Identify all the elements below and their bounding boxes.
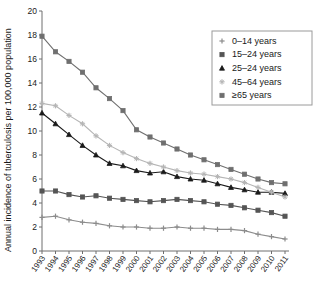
data-point-plus [174,224,179,229]
data-point-star [188,170,193,175]
data-point-square [175,197,179,201]
data-point-star [228,176,233,181]
data-point-square [134,199,138,203]
data-point-square [94,86,98,90]
data-point-square [67,59,71,63]
legend-item-label: 0–14 years [232,36,277,46]
series-2 [40,189,287,218]
data-point-square [53,50,57,54]
data-point-plus [228,227,233,232]
data-point-plus [120,224,125,229]
data-point-plus [188,226,193,231]
y-tick-label: 20 [28,6,38,16]
data-point-plus [147,226,152,231]
data-point-square [188,199,192,203]
data-point-star [66,113,71,118]
series-3 [40,110,288,195]
data-point-plus [269,234,274,239]
data-point-star [174,168,179,173]
data-point-plus [39,215,44,220]
data-point-square [202,200,206,204]
data-point-square [283,214,287,218]
data-point-square [40,189,44,193]
data-point-plus [80,220,85,225]
data-point-square [80,195,84,199]
data-point-star [107,143,112,148]
data-point-square [134,128,138,132]
y-tick-label: 4 [32,198,37,208]
data-point-square [215,163,219,167]
data-point-square [242,172,246,176]
line-chart: Annual incidence of tuberculosis per 100… [0,0,320,291]
data-point-plus [282,236,287,241]
y-tick-label: 2 [32,222,37,232]
chart-container: Annual incidence of tuberculosis per 100… [0,0,320,291]
x-tick-label: 2011 [273,254,291,274]
data-point-square [80,70,84,74]
data-point-square [220,93,224,97]
series-4 [39,101,287,200]
data-point-star [93,133,98,138]
y-axis-title: Annual incidence of tuberculosis per 100… [3,28,13,252]
data-point-plus [134,224,139,229]
y-tick-label: 8 [32,150,37,160]
data-point-square [161,199,165,203]
data-point-star [120,150,125,155]
y-tick-label: 16 [28,54,38,64]
data-point-plus [161,226,166,231]
chart-legend: 0–14 years15–24 years25–24 years45–64 ye… [212,31,312,105]
data-point-star [255,185,260,190]
series-1 [39,214,287,242]
y-tick-label: 12 [28,102,38,112]
data-point-square [94,194,98,198]
series-line [42,113,285,193]
data-point-square [283,182,287,186]
data-point-square [220,53,224,57]
legend-item-label: ≥65 years [232,90,272,100]
data-point-star [242,180,247,185]
series-line [42,191,285,216]
y-tick-label: 10 [28,126,38,136]
data-point-plus [215,227,220,232]
data-point-star [147,161,152,166]
data-point-star [282,194,287,199]
data-point-square [256,208,260,212]
legend-item-label: 15–24 years [232,49,282,59]
data-point-plus [93,221,98,226]
data-point-star [201,172,206,177]
data-point-square [256,177,260,181]
data-point-star [219,79,224,84]
data-point-square [121,109,125,113]
data-point-square [229,167,233,171]
data-point-square [161,141,165,145]
data-point-square [269,211,273,215]
data-point-star [53,103,58,108]
data-point-star [134,156,139,161]
y-axis-ticks: 02468101214161820 [28,6,42,256]
x-tick-label: 2010 [259,254,277,274]
data-point-square [148,200,152,204]
data-point-square [67,193,71,197]
data-point-plus [66,217,71,222]
data-point-square [202,158,206,162]
data-point-square [53,189,57,193]
data-point-star [161,164,166,169]
data-point-star [80,121,85,126]
data-point-plus [107,223,112,228]
data-point-plus [53,214,58,219]
data-point-square [107,97,111,101]
legend-item-label: 45–64 years [232,77,282,87]
data-point-star [269,190,274,195]
data-point-star [39,101,44,106]
data-point-plus [242,228,247,233]
data-point-square [107,196,111,200]
data-point-square [215,202,219,206]
data-point-square [188,153,192,157]
legend-item-label: 25–24 years [232,63,282,73]
series-line [42,103,285,197]
data-point-square [229,203,233,207]
data-point-star [215,174,220,179]
data-point-square [121,197,125,201]
y-tick-label: 14 [28,78,38,88]
data-point-plus [201,226,206,231]
